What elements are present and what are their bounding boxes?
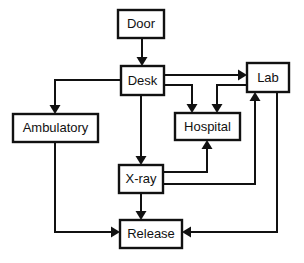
node-label: Lab <box>257 70 279 85</box>
flowchart-diagram: DoorDeskLabAmbulatoryHospitalX-rayReleas… <box>0 0 304 263</box>
arrowhead-icon <box>250 92 261 101</box>
node-desk[interactable]: Desk <box>121 66 164 95</box>
arrowhead-icon <box>136 156 147 165</box>
flowchart-canvas: DoorDeskLabAmbulatoryHospitalX-rayReleas… <box>0 0 304 263</box>
node-label: X-ray <box>125 171 157 186</box>
node-xray[interactable]: X-ray <box>119 165 163 193</box>
node-release[interactable]: Release <box>120 220 182 248</box>
node-label: Desk <box>128 73 158 88</box>
edge-door-to-desk <box>137 38 148 66</box>
arrowhead-icon <box>111 227 120 238</box>
node-label: Release <box>127 226 175 241</box>
arrowhead-icon <box>137 57 148 66</box>
arrowhead-icon <box>136 211 147 220</box>
edge-line <box>164 85 192 106</box>
node-ambulatory[interactable]: Ambulatory <box>13 114 98 142</box>
edge-ambulatory-to-release <box>55 142 120 238</box>
edge-desk-to-lab <box>164 70 247 81</box>
edge-line <box>55 80 121 107</box>
edge-line <box>55 142 112 232</box>
edge-desk-to-ambulatory <box>50 80 122 114</box>
arrowhead-icon <box>238 70 247 81</box>
edge-xray-to-hospital <box>163 140 213 172</box>
edge-line <box>163 148 207 172</box>
arrowhead-icon <box>187 104 198 113</box>
edge-line <box>217 85 247 106</box>
arrowhead-icon <box>212 104 223 113</box>
node-label: Ambulatory <box>23 120 89 135</box>
node-lab[interactable]: Lab <box>247 63 289 92</box>
edge-lab-to-hospital <box>212 85 248 113</box>
arrowhead-icon <box>202 140 213 149</box>
edge-xray-to-release <box>136 193 147 220</box>
node-label: Door <box>127 16 156 31</box>
node-label: Hospital <box>184 119 231 134</box>
edge-desk-to-xray <box>136 95 147 165</box>
arrowhead-icon <box>182 227 191 238</box>
node-hospital[interactable]: Hospital <box>175 113 240 140</box>
node-door[interactable]: Door <box>118 10 164 38</box>
arrowhead-icon <box>50 105 61 114</box>
edge-desk-to-hospital <box>164 85 198 113</box>
